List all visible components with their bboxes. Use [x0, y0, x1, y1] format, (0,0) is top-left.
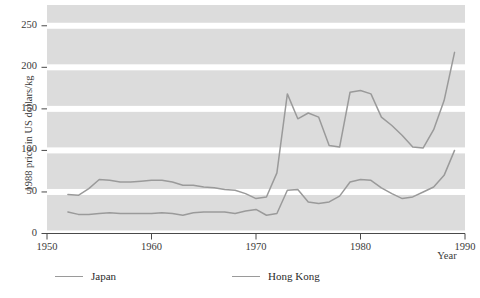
- gridline-band: [47, 112, 465, 148]
- legend-entry-japan: Japan: [55, 270, 116, 282]
- y-tick-label: 200: [3, 60, 37, 71]
- x-axis-ticks: [47, 234, 465, 240]
- legend-line-swatch-hong-kong: [232, 276, 260, 277]
- x-tick-label: 1990: [445, 241, 480, 252]
- x-tick-label: 1970: [236, 241, 276, 252]
- y-axis-ticks: [42, 26, 48, 234]
- legend-label-hong-kong: Hong Kong: [268, 270, 320, 282]
- y-tick-label: 50: [3, 185, 37, 196]
- x-tick-label: 1950: [27, 241, 67, 252]
- legend-line-swatch-japan: [55, 276, 83, 277]
- gridline-band: [47, 153, 465, 189]
- x-tick-label: 1960: [132, 241, 172, 252]
- legend-label-japan: Japan: [91, 270, 116, 282]
- gridline-band: [47, 29, 465, 65]
- gridline-band: [47, 70, 465, 106]
- gridline-bands: [47, 5, 465, 231]
- x-tick-label: 1980: [341, 241, 381, 252]
- y-tick-label: 250: [3, 19, 37, 30]
- chart-legend: Japan Hong Kong: [0, 268, 474, 292]
- gridline-band: [47, 5, 465, 23]
- y-tick-label: 150: [3, 102, 37, 113]
- y-tick-label: 100: [3, 143, 37, 154]
- y-tick-label: 0: [3, 227, 37, 238]
- legend-entry-hong-kong: Hong Kong: [232, 270, 320, 282]
